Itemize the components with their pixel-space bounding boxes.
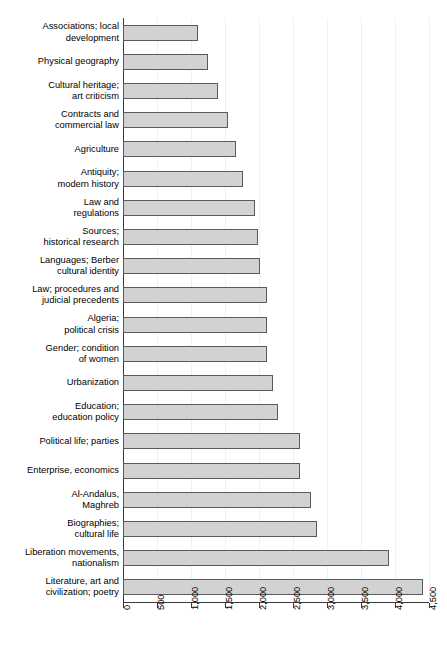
category-label: Associations; local development <box>0 21 119 43</box>
x-axis-line <box>123 602 429 603</box>
category-label: Cultural heritage; art criticism <box>0 80 119 102</box>
x-tick-label-text: 4,500 <box>429 587 438 610</box>
category-label: Law and regulations <box>0 197 119 219</box>
bar-row[interactable] <box>123 193 429 222</box>
plot-area <box>123 18 429 602</box>
x-tick-label-text: 1,000 <box>191 587 200 610</box>
x-tick-label-text: 3,000 <box>327 587 336 610</box>
bar-row[interactable] <box>123 310 429 339</box>
category-label: Al-Andalus, Maghreb <box>0 489 119 511</box>
bar[interactable] <box>123 25 198 41</box>
bar[interactable] <box>123 317 267 333</box>
category-label: Law; procedures and judicial precedents <box>0 284 119 306</box>
category-label: Sources; historical research <box>0 226 119 248</box>
category-label: Education; education policy <box>0 401 119 423</box>
bar-row[interactable] <box>123 485 429 514</box>
bar-row[interactable] <box>123 106 429 135</box>
bar-row[interactable] <box>123 514 429 543</box>
bar-row[interactable] <box>123 252 429 281</box>
bar-row[interactable] <box>123 544 429 573</box>
bar-row[interactable] <box>123 47 429 76</box>
bar[interactable] <box>123 200 255 216</box>
bar[interactable] <box>123 258 260 274</box>
bar[interactable] <box>123 521 317 537</box>
x-tick-label-text: 4,000 <box>395 587 404 610</box>
bar[interactable] <box>123 83 218 99</box>
bar-row[interactable] <box>123 164 429 193</box>
category-label: Urbanization <box>0 377 119 388</box>
category-label: Biographies; cultural life <box>0 518 119 540</box>
bar-row[interactable] <box>123 18 429 47</box>
category-label: Liberation movements, nationalism <box>0 547 119 569</box>
category-label: Agriculture <box>0 144 119 155</box>
bar[interactable] <box>123 375 273 391</box>
category-label: Contracts and commercial law <box>0 109 119 131</box>
bar-row[interactable] <box>123 573 429 602</box>
category-axis-labels: Associations; local developmentPhysical … <box>0 18 119 602</box>
bar[interactable] <box>123 579 423 595</box>
bar-row[interactable] <box>123 427 429 456</box>
bar-row[interactable] <box>123 222 429 251</box>
category-label: Literature, art and civilization; poetry <box>0 576 119 598</box>
category-label: Languages; Berber cultural identity <box>0 255 119 277</box>
bar[interactable] <box>123 287 267 303</box>
bar-row[interactable] <box>123 456 429 485</box>
category-label: Physical geography <box>0 56 119 67</box>
bar[interactable] <box>123 433 300 449</box>
bar-row[interactable] <box>123 281 429 310</box>
bar[interactable] <box>123 171 243 187</box>
x-tick-label-text: 2,500 <box>293 587 302 610</box>
bar[interactable] <box>123 112 228 128</box>
category-label: Political life; parties <box>0 436 119 447</box>
category-label: Gender; condition of women <box>0 343 119 365</box>
x-tick-label-text: 1,500 <box>225 587 234 610</box>
bar[interactable] <box>123 404 278 420</box>
category-label: Enterprise, economics <box>0 465 119 476</box>
x-tick-label-text: 0 <box>123 605 132 610</box>
category-label: Antiquity; modern history <box>0 167 119 189</box>
bar[interactable] <box>123 346 267 362</box>
bar[interactable] <box>123 492 311 508</box>
bar[interactable] <box>123 141 236 157</box>
bar-row[interactable] <box>123 368 429 397</box>
bar[interactable] <box>123 54 208 70</box>
bar-row[interactable] <box>123 339 429 368</box>
bar[interactable] <box>123 463 300 479</box>
gridline <box>429 18 430 602</box>
x-tick-label-text: 2,000 <box>259 587 268 610</box>
bar[interactable] <box>123 550 389 566</box>
category-label: Algeria; political crisis <box>0 313 119 335</box>
bar-row[interactable] <box>123 76 429 105</box>
bar[interactable] <box>123 229 258 245</box>
bar-row[interactable] <box>123 135 429 164</box>
x-tick-label-text: 3,500 <box>361 587 370 610</box>
bar-row[interactable] <box>123 398 429 427</box>
x-tick-label-text: 500 <box>157 594 166 610</box>
bar-chart: Associations; local developmentPhysical … <box>0 0 447 660</box>
